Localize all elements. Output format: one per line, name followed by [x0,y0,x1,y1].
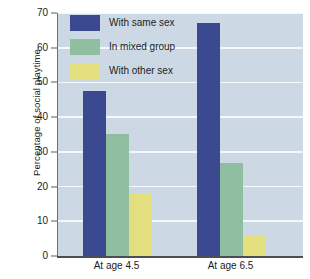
x-axis-line [57,256,303,258]
x-tick-label: At age 4.5 [94,261,140,271]
legend: With same sexIn mixed groupWith other se… [70,12,220,84]
legend-label: In mixed group [109,42,175,52]
bar [220,163,243,256]
legend-item: With other sex [70,60,220,81]
bar-chart: Percentage of social playtime 0102030405… [0,0,310,279]
legend-item: In mixed group [70,36,220,57]
bar [106,134,129,256]
y-tick-label: 30 [20,147,48,157]
legend-item: With same sex [70,12,220,33]
legend-swatch [70,63,100,79]
y-tick-label: 50 [20,77,48,87]
x-tick-label: At age 6.5 [208,261,254,271]
bar [243,235,266,256]
legend-label: With same sex [109,18,175,28]
legend-swatch [70,15,100,31]
y-tick-label: 10 [20,216,48,226]
y-axis-tick-labels: 010203040506070 [18,0,48,279]
bar [83,91,106,256]
y-tick-label: 20 [20,182,48,192]
y-tick-label: 40 [20,112,48,122]
legend-swatch [70,39,100,55]
y-tick-label: 60 [20,43,48,53]
y-tick-label: 0 [20,251,48,261]
legend-label: With other sex [109,66,173,76]
y-tick-label: 70 [20,8,48,18]
bar [129,193,152,256]
